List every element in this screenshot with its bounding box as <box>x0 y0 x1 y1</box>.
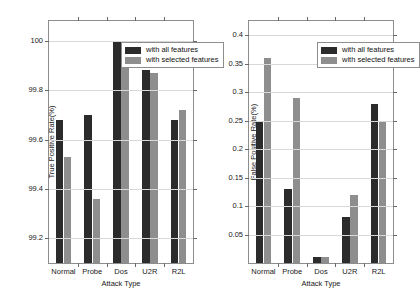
y-tick-mark <box>245 206 249 207</box>
legend-swatch-light-icon <box>321 57 337 64</box>
y-tick-mark <box>193 140 197 141</box>
y-axis-title-false-positive-rate: False Positive Rate(%) <box>249 104 258 180</box>
legend-label-selected-features: with selected features <box>342 56 415 64</box>
y-tick-label: 0.15 <box>228 174 243 182</box>
y-gridline <box>249 178 393 179</box>
y-gridline <box>249 206 393 207</box>
y-gridline <box>249 35 393 36</box>
bar-u2r-selected-features <box>350 195 358 263</box>
y-tick-mark <box>245 178 249 179</box>
legend-item-selected-features: with selected features <box>125 55 219 65</box>
y-gridline <box>49 90 193 91</box>
x-axis-title-attack-type: Attack Type <box>101 279 140 288</box>
legend-swatch-dark-icon <box>125 47 141 54</box>
x-tick-mark <box>135 263 136 267</box>
x-tick-mark <box>78 263 79 267</box>
y-tick-mark <box>45 41 49 42</box>
x-tick-mark <box>135 17 136 21</box>
y-gridline <box>249 149 393 150</box>
y-tick-mark <box>193 90 197 91</box>
x-tick-mark <box>364 17 365 21</box>
legend-true-positive-rate: with all features with selected features <box>121 42 224 68</box>
x-tick-label-probe: Probe <box>82 268 102 276</box>
bar-normal-all-features <box>56 120 64 263</box>
x-tick-mark <box>107 17 108 21</box>
y-gridline <box>49 238 193 239</box>
x-tick-label-u2r: U2R <box>342 268 357 276</box>
bar-dos-all-features <box>313 257 321 263</box>
y-tick-label: 0.05 <box>228 231 243 239</box>
bar-probe-selected-features <box>93 199 101 263</box>
y-tick-mark <box>45 238 49 239</box>
x-tick-mark <box>335 17 336 21</box>
bar-dos-all-features <box>113 41 121 263</box>
y-tick-label: 0.2 <box>233 145 243 153</box>
x-tick-mark <box>278 17 279 21</box>
y-tick-label: 0.35 <box>228 60 243 68</box>
x-tick-mark <box>307 263 308 267</box>
x-tick-label-u2r: U2R <box>142 268 157 276</box>
bar-u2r-all-features <box>142 70 150 263</box>
x-tick-mark <box>107 263 108 267</box>
bar-probe-selected-features <box>293 98 301 263</box>
y-tick-mark <box>393 149 397 150</box>
y-tick-mark <box>45 90 49 91</box>
y-tick-mark <box>245 92 249 93</box>
x-tick-mark <box>164 263 165 267</box>
y-gridline <box>49 189 193 190</box>
x-tick-label-probe: Probe <box>282 268 302 276</box>
y-tick-label: 99.8 <box>28 86 43 94</box>
bar-dos-selected-features <box>121 41 129 263</box>
x-tick-mark <box>278 263 279 267</box>
y-tick-label: 99.2 <box>28 235 43 243</box>
y-tick-mark <box>45 189 49 190</box>
x-tick-mark <box>364 263 365 267</box>
bar-dos-selected-features <box>321 257 329 263</box>
x-tick-label-normal: Normal <box>51 268 75 276</box>
legend-swatch-light-icon <box>125 57 141 64</box>
y-tick-label: 0.4 <box>233 31 243 39</box>
bar-r2l-all-features <box>371 104 379 263</box>
y-tick-mark <box>45 140 49 141</box>
y-axis-title-true-positive-rate: True Positive Rate(%) <box>47 105 56 178</box>
y-tick-label: 100 <box>30 37 43 45</box>
y-tick-mark <box>393 92 397 93</box>
y-tick-mark <box>245 121 249 122</box>
y-tick-mark <box>245 235 249 236</box>
plot-area-false-positive-rate: with all features with selected features… <box>248 20 394 264</box>
x-tick-mark <box>164 17 165 21</box>
legend-item-all-features: with all features <box>321 45 415 55</box>
legend-item-selected-features: with selected features <box>321 55 415 65</box>
y-gridline <box>49 140 193 141</box>
y-tick-mark <box>393 235 397 236</box>
y-tick-mark <box>393 35 397 36</box>
x-tick-label-r2l: R2L <box>172 268 186 276</box>
x-tick-label-dos: Dos <box>114 268 127 276</box>
bar-probe-all-features <box>284 189 292 263</box>
bar-normal-selected-features <box>264 58 272 263</box>
bar-r2l-all-features <box>171 120 179 263</box>
legend-label-selected-features: with selected features <box>146 56 219 64</box>
y-tick-label: 0.3 <box>233 88 243 96</box>
y-gridline <box>249 235 393 236</box>
legend-label-all-features: with all features <box>146 46 198 54</box>
y-tick-mark <box>393 121 397 122</box>
y-tick-label: 0.1 <box>233 202 243 210</box>
x-tick-label-r2l: R2L <box>372 268 386 276</box>
y-tick-mark <box>245 149 249 150</box>
x-tick-mark <box>335 263 336 267</box>
panel-false-positive-rate: with all features with selected features… <box>204 0 408 305</box>
legend-false-positive-rate: with all features with selected features <box>317 42 420 68</box>
y-tick-mark <box>193 189 197 190</box>
y-tick-label: 99.4 <box>28 185 43 193</box>
y-gridline <box>249 92 393 93</box>
bar-r2l-selected-features <box>179 110 187 263</box>
plot-area-true-positive-rate: with all features with selected features… <box>48 20 194 264</box>
y-tick-mark <box>245 64 249 65</box>
legend-swatch-dark-icon <box>321 47 337 54</box>
x-tick-mark <box>307 17 308 21</box>
x-tick-label-normal: Normal <box>251 268 275 276</box>
y-gridline <box>249 121 393 122</box>
bar-u2r-all-features <box>342 217 350 263</box>
